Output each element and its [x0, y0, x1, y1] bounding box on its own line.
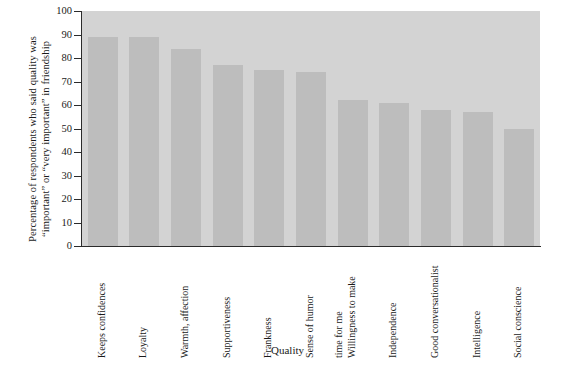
y-tick-label-text: 90: [46, 30, 72, 41]
y-tick-mark: [74, 246, 81, 247]
y-tick-label-text: 50: [46, 124, 72, 135]
bar: [129, 37, 159, 246]
y-tick-label: 70: [42, 77, 72, 87]
y-tick-label: 100: [42, 6, 72, 16]
y-tick-label: 30: [42, 171, 72, 181]
x-tick-label: Keeps confidences: [95, 250, 111, 358]
y-tick-label-text: 80: [46, 53, 72, 64]
y-tick-label: 60: [42, 100, 72, 110]
bar-chart: Percentage of respondents who said quali…: [0, 0, 575, 381]
plot-area: [82, 11, 540, 246]
y-tick-label-text: 10: [46, 218, 72, 229]
y-tick-mark: [74, 223, 81, 224]
x-tick-label: Willingness to maketime for me: [345, 250, 361, 358]
x-tick-label: Good conversationalist: [428, 250, 444, 358]
x-tick-label: Frankness: [261, 250, 277, 358]
x-tick-label: Sense of humor: [303, 250, 319, 358]
bar: [421, 110, 451, 246]
y-tick-mark: [74, 82, 81, 83]
bar: [338, 100, 368, 246]
y-tick-mark: [74, 152, 81, 153]
x-tick-label: Warmth, affection: [178, 250, 194, 358]
y-tick-label: 20: [42, 194, 72, 204]
bar: [463, 112, 493, 246]
y-tick-label-text: 30: [46, 171, 72, 182]
y-axis-title-line-2: “important” or “very important” in frien…: [39, 41, 52, 237]
bar: [213, 65, 243, 246]
y-tick-label-text: 40: [46, 147, 72, 158]
y-tick-label-text: 100: [46, 6, 72, 17]
y-axis-title-line-1: Percentage of respondents who said quali…: [26, 36, 39, 242]
y-tick-mark: [74, 105, 81, 106]
bar: [504, 129, 534, 247]
y-tick-mark: [74, 58, 81, 59]
x-tick-label: Social conscience: [511, 250, 527, 358]
bar: [296, 72, 326, 246]
y-tick-label: 50: [42, 124, 72, 134]
y-tick-label-text: 60: [46, 100, 72, 111]
y-tick-label-text: 0: [46, 241, 72, 252]
y-tick-label: 0: [42, 241, 72, 251]
bar: [254, 70, 284, 246]
x-tick-label: Intelligence: [470, 250, 486, 358]
y-tick-mark: [74, 35, 81, 36]
y-tick-label: 40: [42, 147, 72, 157]
bar: [171, 49, 201, 246]
y-tick-label: 90: [42, 30, 72, 40]
bar: [379, 103, 409, 246]
x-tick-label: Loyalty: [136, 250, 152, 358]
bar: [88, 37, 118, 246]
y-axis-line: [81, 11, 82, 247]
y-tick-mark: [74, 199, 81, 200]
y-tick-mark: [74, 11, 81, 12]
x-tick-label: Independence: [386, 250, 402, 358]
y-tick-mark: [74, 129, 81, 130]
x-tick-label: Supportiveness: [220, 250, 236, 358]
y-tick-mark: [74, 176, 81, 177]
x-axis-line: [81, 246, 541, 247]
y-tick-label-text: 70: [46, 77, 72, 88]
y-tick-label: 80: [42, 53, 72, 63]
y-tick-label: 10: [42, 218, 72, 228]
x-axis-title: Quality: [0, 344, 575, 356]
y-tick-label-text: 20: [46, 194, 72, 205]
